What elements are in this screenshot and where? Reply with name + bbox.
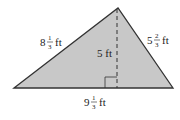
svg-text:3: 3 <box>48 43 52 51</box>
svg-text:ft: ft <box>55 36 62 48</box>
svg-text:3: 3 <box>155 41 159 49</box>
triangle <box>14 8 173 88</box>
height-label: 5 ft <box>97 47 112 59</box>
right-side-label: 5 2 3 ft <box>147 32 169 49</box>
svg-text:8: 8 <box>40 36 46 48</box>
svg-text:ft: ft <box>99 96 106 108</box>
svg-text:ft: ft <box>162 34 169 46</box>
svg-text:9: 9 <box>84 96 90 108</box>
triangle-diagram: 8 1 3 ft 5 2 3 ft 5 ft 9 1 3 ft <box>0 0 180 120</box>
svg-text:2: 2 <box>155 32 159 40</box>
svg-text:1: 1 <box>92 94 96 102</box>
svg-text:3: 3 <box>92 103 96 111</box>
svg-text:1: 1 <box>48 34 52 42</box>
base-label: 9 1 3 ft <box>84 94 106 111</box>
svg-text:5: 5 <box>147 34 153 46</box>
left-side-label: 8 1 3 ft <box>40 34 62 51</box>
